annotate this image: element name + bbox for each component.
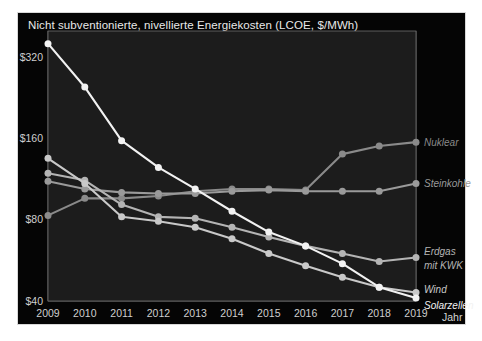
x-tick-label: 2012 — [147, 307, 171, 319]
data-point — [118, 195, 125, 202]
data-point — [81, 180, 88, 187]
y-tick-label: $40 — [25, 295, 43, 307]
series-label-solarzellen: Solarzellen — [424, 300, 474, 311]
data-point — [192, 185, 199, 192]
data-point — [302, 242, 309, 249]
data-point — [265, 229, 272, 236]
series-label-wind: Wind — [424, 284, 447, 295]
x-tick-label: 2011 — [110, 307, 133, 319]
data-point — [45, 40, 52, 47]
data-point — [376, 143, 383, 150]
data-point — [339, 274, 346, 281]
chart-figure: Nicht subventionierte, nivellierte Energ… — [17, 12, 466, 325]
data-point — [376, 188, 383, 195]
data-point — [265, 250, 272, 257]
data-point — [413, 254, 420, 261]
data-point — [118, 201, 125, 208]
x-tick-label: 2015 — [257, 307, 281, 319]
y-tick-label: $160 — [20, 132, 44, 144]
x-tick-label: 2018 — [368, 307, 392, 319]
lcoe-line-chart: $320$160$80$40 2009201020112012201320142… — [18, 13, 467, 326]
data-point — [376, 284, 383, 291]
data-point — [118, 213, 125, 220]
data-point — [229, 235, 236, 242]
x-tick-label: 2016 — [294, 307, 318, 319]
data-point — [413, 139, 420, 146]
data-point — [229, 208, 236, 215]
x-axis-title: Jahr — [442, 311, 463, 323]
data-point — [81, 195, 88, 202]
data-point — [413, 295, 420, 302]
data-point — [339, 260, 346, 267]
x-axis-ticks: 2009201020112012201320142015201620172018… — [36, 307, 428, 319]
data-point — [229, 188, 236, 195]
data-point — [413, 180, 420, 187]
data-point — [192, 224, 199, 231]
series-label-erdgas: Erdgas — [424, 246, 456, 257]
data-point — [339, 250, 346, 257]
series-labels: NuklearSteinkohleErdgasmit KWKWindSolarz… — [424, 137, 474, 311]
data-point — [118, 189, 125, 196]
data-point — [45, 212, 52, 219]
plot-frame — [48, 31, 416, 301]
series-label-erdgas-line2: mit KWK — [424, 260, 464, 271]
data-point — [302, 262, 309, 269]
data-point — [376, 258, 383, 265]
data-point — [81, 84, 88, 91]
y-axis-ticks: $320$160$80$40 — [20, 51, 44, 307]
data-point — [192, 215, 199, 222]
data-point — [339, 151, 346, 158]
y-tick-label: $320 — [20, 51, 44, 63]
x-tick-label: 2014 — [220, 307, 244, 319]
y-tick-label: $80 — [25, 213, 43, 225]
x-tick-label: 2013 — [184, 307, 208, 319]
x-tick-label: 2010 — [73, 307, 97, 319]
data-point — [302, 188, 309, 195]
series-label-nuklear: Nuklear — [424, 137, 459, 148]
data-point — [339, 188, 346, 195]
data-point — [155, 190, 162, 197]
data-point — [45, 155, 52, 162]
data-point — [155, 218, 162, 225]
data-point — [45, 170, 52, 177]
data-point — [229, 224, 236, 231]
data-point — [45, 178, 52, 185]
x-tick-label: 2009 — [36, 307, 60, 319]
data-point — [265, 187, 272, 194]
series-label-steinkohle: Steinkohle — [424, 178, 471, 189]
x-tick-label: 2017 — [331, 307, 355, 319]
data-point — [155, 164, 162, 171]
data-point — [118, 137, 125, 144]
